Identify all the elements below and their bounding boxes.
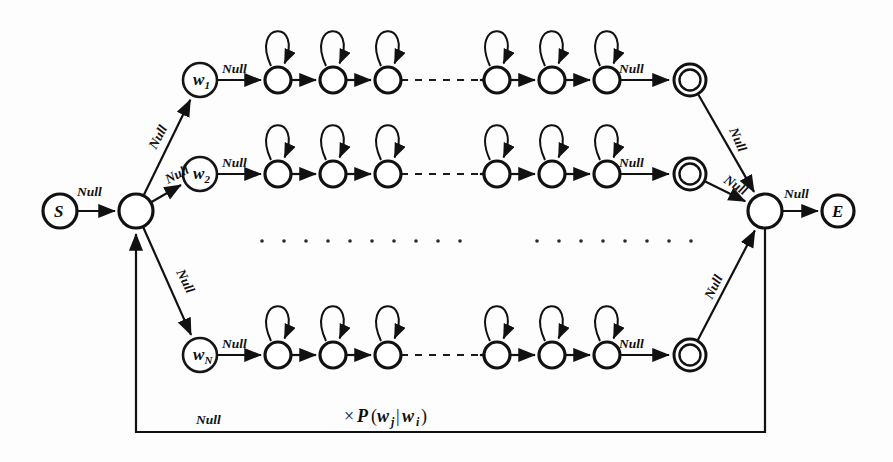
- prob-w-i: w: [402, 406, 415, 426]
- word-node-label-N: w: [193, 345, 205, 364]
- feedback-null-label: Null: [195, 412, 221, 427]
- row-0-selfloop-right-2: [595, 31, 618, 66]
- row-1-accept-inner: [680, 164, 701, 185]
- row-1-selfloop-left-0: [266, 125, 289, 160]
- row-2-selfloop-left-0: [266, 306, 289, 341]
- row-2-state-right-2: [594, 342, 620, 368]
- ellipsis-left-dot-8: [436, 239, 440, 243]
- row-2-exit-label: Null: [618, 336, 644, 351]
- ellipsis-right-dot-0: [535, 239, 539, 243]
- row-1-selfloop-right-1: [540, 125, 563, 160]
- row-1-selfloop-right-0: [485, 125, 508, 160]
- branch-label-N: Null: [173, 266, 198, 296]
- ellipsis-right-dot-3: [601, 239, 605, 243]
- prob-close: ): [421, 406, 427, 427]
- row-1-state-right-0: [484, 161, 510, 187]
- row-0-accept-inner: [680, 70, 701, 91]
- row-1-selfloop-right-2: [595, 125, 618, 160]
- row-1-state-left-1: [320, 161, 346, 187]
- row-0-selfloop-left-0: [266, 31, 289, 66]
- word-node-subscript-1: 1: [205, 79, 211, 91]
- ellipsis-left-dot-3: [326, 239, 330, 243]
- row-0-selfloop-right-0: [485, 31, 508, 66]
- prob-sub-j: j: [389, 415, 395, 429]
- prob-times: ×: [344, 406, 354, 426]
- ellipsis-left-dot-7: [414, 239, 418, 243]
- row-2-selfloop-right-0: [485, 306, 508, 341]
- row-2-selfloop-left-1: [321, 306, 344, 341]
- row-0-state-right-2: [594, 67, 620, 93]
- row-2-state-left-0: [265, 342, 291, 368]
- prob-sub-i: i: [416, 415, 420, 429]
- start-node-label: S: [54, 202, 63, 221]
- ellipsis-left-dot-5: [370, 239, 374, 243]
- row-1-selfloop-left-2: [376, 125, 399, 160]
- feedback-probability-label: ×P(wj|wi): [344, 406, 427, 429]
- word-node-subscript-2: 2: [204, 173, 211, 185]
- row-0-exit-label: Null: [618, 61, 644, 76]
- row-0-entry-label: Null: [221, 61, 247, 76]
- ellipsis-left-dot-6: [392, 239, 396, 243]
- row-0-selfloop-left-1: [321, 31, 344, 66]
- ellipsis-right-dot-4: [623, 239, 627, 243]
- ellipsis-left-dot-0: [260, 239, 264, 243]
- branch-edge-2: [151, 185, 181, 202]
- label-layer: w1NullNullw2NullNullwNNullNullSENullNull…: [54, 61, 843, 429]
- fsm-diagram-svg: w1NullNullw2NullNullwNNullNullSENullNull…: [0, 0, 893, 462]
- row-1-exit-label: Null: [618, 155, 644, 170]
- word-node-subscript-N: N: [204, 354, 214, 366]
- ellipsis-right-dot-7: [689, 239, 693, 243]
- ellipsis-left-dot-2: [304, 239, 308, 243]
- row-2-accept-inner: [680, 345, 701, 366]
- ellipsis-left-dot-9: [458, 239, 462, 243]
- row-2-selfloop-right-2: [595, 306, 618, 341]
- ellipsis-right-dot-6: [667, 239, 671, 243]
- row-0-state-left-0: [265, 67, 291, 93]
- row-1-state-left-0: [265, 161, 291, 187]
- ellipsis-left-dot-4: [348, 239, 352, 243]
- start-to-hub-label: Null: [76, 184, 102, 199]
- row-2-state-right-1: [539, 342, 565, 368]
- word-node-label-1: w: [193, 70, 205, 89]
- row-1-entry-label: Null: [221, 155, 247, 170]
- ellipsis-right-dot-2: [579, 239, 583, 243]
- fsm-diagram-canvas: w1NullNullw2NullNullwNNullNullSENullNull…: [0, 0, 893, 462]
- exit-to-end-label: Null: [783, 186, 809, 201]
- exit-hub-node: [748, 194, 782, 228]
- prob-w-j: w: [377, 406, 390, 426]
- row-2-selfloop-left-2: [376, 306, 399, 341]
- row-0-state-left-1: [320, 67, 346, 93]
- row-1-selfloop-left-1: [321, 125, 344, 160]
- row-1-state-right-2: [594, 161, 620, 187]
- row-1-state-right-1: [539, 161, 565, 187]
- row-0-state-right-0: [484, 67, 510, 93]
- bigram-feedback-edge: [136, 228, 765, 432]
- end-node-label: E: [831, 202, 843, 221]
- row-2-selfloop-right-1: [540, 306, 563, 341]
- row-0-state-left-2: [375, 67, 401, 93]
- merge-label-2: Null: [721, 171, 751, 198]
- entry-hub-node: [119, 194, 153, 228]
- row-2-state-right-0: [484, 342, 510, 368]
- ellipsis-right-dot-5: [645, 239, 649, 243]
- row-2-state-left-2: [375, 342, 401, 368]
- row-0-selfloop-left-2: [376, 31, 399, 66]
- prob-fn: P: [356, 406, 369, 426]
- row-2-state-left-1: [320, 342, 346, 368]
- ellipsis-left-dot-1: [282, 239, 286, 243]
- word-node-label-2: w: [193, 164, 205, 183]
- row-2-entry-label: Null: [221, 336, 247, 351]
- row-1-state-left-2: [375, 161, 401, 187]
- ellipsis-right-dot-1: [557, 239, 561, 243]
- row-0-state-right-1: [539, 67, 565, 93]
- prob-bar: |: [396, 406, 400, 426]
- node-layer: [43, 63, 854, 372]
- merge-label-N: Null: [701, 272, 726, 302]
- row-0-selfloop-right-1: [540, 31, 563, 66]
